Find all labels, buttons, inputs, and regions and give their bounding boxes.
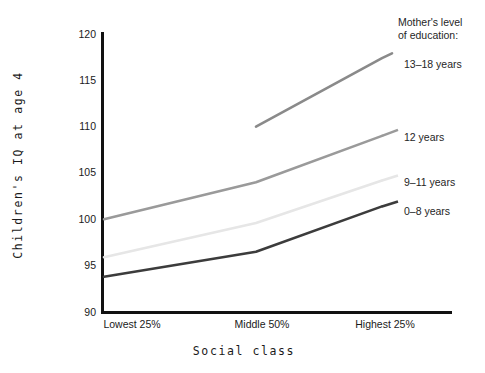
legend-connector-0-8-years — [382, 201, 398, 206]
series-line-12-years — [104, 136, 382, 219]
legend-connector-9-11-years — [382, 175, 398, 180]
legend-title-line-1: Mother's level — [398, 16, 484, 29]
legend-connector-12-years — [382, 130, 398, 136]
series-line-9-11-years — [104, 180, 382, 257]
legend-item-12-years: 12 years — [404, 131, 444, 143]
chart-figure: Children's IQ at age 4 120 115 110 105 1… — [0, 0, 485, 373]
legend-title-line-2: of education: — [398, 29, 484, 42]
legend-title: Mother's level of education: — [398, 16, 484, 42]
series-line-13-18-years — [256, 53, 392, 126]
series-line-0-8-years — [104, 206, 382, 276]
legend-item-0-8-years: 0–8 years — [404, 205, 450, 217]
legend-item-9-11-years: 9–11 years — [404, 176, 455, 188]
legend-item-13-18-years: 13–18 years — [404, 58, 462, 70]
